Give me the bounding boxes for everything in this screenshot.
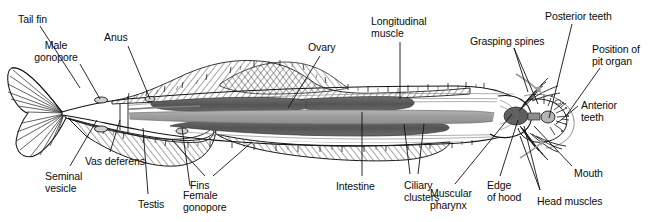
label-mouth: Mouth bbox=[574, 168, 603, 180]
label-head-muscles: Head muscles bbox=[537, 196, 602, 208]
label-male-gonopore: Male gonopore bbox=[34, 40, 78, 63]
label-position-of-pit-organ: Position of pit organ bbox=[592, 44, 640, 67]
label-longitudinal-muscle: Longitudinal muscle bbox=[371, 16, 426, 39]
label-anterior-teeth: Anterior teeth bbox=[581, 100, 617, 123]
label-grasping-spines: Grasping spines bbox=[470, 36, 544, 48]
label-intestine: Intestine bbox=[336, 181, 375, 193]
arrow-worm-drawing bbox=[0, 0, 651, 222]
label-tail-fin: Tail fin bbox=[18, 14, 47, 26]
female-gonopore-opening bbox=[95, 126, 108, 132]
label-seminal-vesicle: Seminal vesicle bbox=[45, 171, 82, 194]
ovary-organ-upper-right bbox=[306, 97, 414, 112]
pharynx-connector bbox=[528, 113, 540, 120]
label-anus: Anus bbox=[104, 32, 128, 44]
label-ciliary-clusters: Ciliary clusters bbox=[404, 180, 439, 203]
label-edge-of-hood: Edge of hood bbox=[487, 180, 521, 203]
label-posterior-teeth: Posterior teeth bbox=[545, 11, 612, 23]
anatomy-figure: Tail finMale gonoporeAnusOvaryLongitudin… bbox=[0, 0, 651, 222]
label-testis: Testis bbox=[138, 199, 164, 211]
male-gonopore-opening bbox=[95, 97, 108, 103]
mouth-opening bbox=[541, 111, 555, 123]
label-female-gonopore: Female gonopore bbox=[183, 190, 227, 213]
label-vas-deferens: Vas deferens bbox=[85, 156, 145, 168]
intestine-organ bbox=[128, 110, 514, 124]
label-ovary: Ovary bbox=[308, 42, 336, 54]
